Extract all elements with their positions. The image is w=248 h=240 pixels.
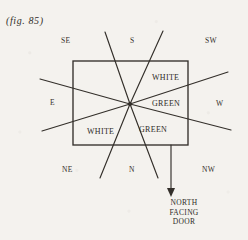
zone-label-white-upper-right: WHITE (152, 74, 179, 82)
direction-label-w: W (216, 100, 223, 108)
door-label-line1: NORTH (148, 198, 220, 208)
zone-label-white-lower-left: WHITE (87, 128, 114, 136)
direction-label-e: E (50, 99, 55, 107)
spoke-s-left (100, 104, 130, 178)
direction-label-sw: SW (205, 37, 217, 45)
direction-label-nw: NW (202, 166, 215, 174)
direction-label-s: S (130, 37, 135, 45)
zone-label-green-lower-right: GREEN (139, 126, 167, 134)
north-facing-door-label: NORTH FACING DOOR (148, 198, 220, 227)
spoke-se (105, 32, 130, 104)
direction-label-n: N (129, 166, 135, 174)
center-hub-dot (128, 102, 132, 106)
spoke-e-lower (42, 104, 130, 131)
door-label-line3: DOOR (148, 217, 220, 227)
door-label-line2: FACING (148, 208, 220, 218)
figure-page: (fig. 85) SE S SW E W NE N NW WHITE GREE… (0, 0, 248, 240)
spoke-sw (130, 31, 163, 104)
direction-label-ne: NE (62, 166, 73, 174)
direction-label-se: SE (61, 37, 71, 45)
zone-label-green-mid-right: GREEN (152, 100, 180, 108)
figure-caption: (fig. 85) (6, 16, 44, 26)
door-arrow-head (167, 188, 175, 197)
